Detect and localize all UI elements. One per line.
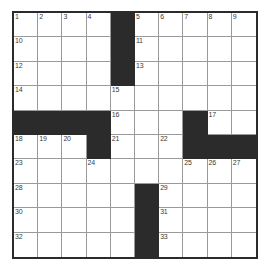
letter-square[interactable] (111, 184, 135, 208)
letter-square[interactable] (87, 86, 111, 110)
letter-square[interactable] (232, 184, 256, 208)
letter-square[interactable]: 18 (14, 135, 38, 159)
letter-square[interactable]: 9 (232, 13, 256, 37)
letter-square[interactable] (87, 37, 111, 61)
letter-square[interactable] (62, 37, 86, 61)
letter-square[interactable] (62, 86, 86, 110)
letter-square[interactable] (87, 184, 111, 208)
letter-square[interactable] (208, 86, 232, 110)
letter-square[interactable] (135, 159, 159, 183)
letter-square[interactable] (135, 86, 159, 110)
letter-square[interactable] (183, 233, 207, 257)
blocked-square (208, 135, 232, 159)
letter-square[interactable]: 2 (38, 13, 62, 37)
blocked-square (38, 111, 62, 135)
letter-square[interactable] (208, 62, 232, 86)
letter-square[interactable] (38, 184, 62, 208)
letter-square[interactable] (38, 208, 62, 232)
letter-square[interactable]: 15 (111, 86, 135, 110)
letter-square[interactable]: 13 (135, 62, 159, 86)
letter-square[interactable] (135, 111, 159, 135)
letter-square[interactable] (62, 233, 86, 257)
letter-square[interactable] (38, 37, 62, 61)
letter-square[interactable] (38, 159, 62, 183)
clue-number: 8 (209, 13, 213, 20)
blocked-square (135, 208, 159, 232)
letter-square[interactable]: 12 (14, 62, 38, 86)
clue-number: 26 (209, 159, 216, 166)
letter-square[interactable] (87, 62, 111, 86)
letter-square[interactable] (208, 233, 232, 257)
letter-square[interactable]: 17 (208, 111, 232, 135)
letter-square[interactable] (159, 159, 183, 183)
letter-square[interactable] (135, 135, 159, 159)
blocked-square (111, 62, 135, 86)
letter-square[interactable]: 25 (183, 159, 207, 183)
letter-square[interactable]: 8 (208, 13, 232, 37)
letter-square[interactable] (183, 37, 207, 61)
letter-square[interactable] (183, 62, 207, 86)
letter-square[interactable] (159, 111, 183, 135)
letter-square[interactable] (232, 233, 256, 257)
letter-square[interactable]: 3 (62, 13, 86, 37)
letter-square[interactable] (183, 208, 207, 232)
letter-square[interactable]: 33 (159, 233, 183, 257)
letter-square[interactable] (232, 37, 256, 61)
letter-square[interactable] (159, 37, 183, 61)
letter-square[interactable]: 7 (183, 13, 207, 37)
letter-square[interactable]: 27 (232, 159, 256, 183)
letter-square[interactable] (159, 86, 183, 110)
letter-square[interactable]: 28 (14, 184, 38, 208)
letter-square[interactable] (62, 208, 86, 232)
letter-square[interactable] (87, 208, 111, 232)
letter-square[interactable]: 5 (135, 13, 159, 37)
letter-square[interactable] (183, 184, 207, 208)
letter-square[interactable]: 21 (111, 135, 135, 159)
letter-square[interactable]: 10 (14, 37, 38, 61)
clue-number: 27 (233, 159, 240, 166)
letter-square[interactable] (159, 62, 183, 86)
letter-square[interactable]: 30 (14, 208, 38, 232)
letter-square[interactable]: 23 (14, 159, 38, 183)
letter-square[interactable]: 20 (62, 135, 86, 159)
letter-square[interactable] (62, 62, 86, 86)
letter-square[interactable] (38, 62, 62, 86)
letter-square[interactable] (208, 184, 232, 208)
blocked-square (135, 233, 159, 257)
letter-square[interactable] (111, 208, 135, 232)
letter-square[interactable]: 11 (135, 37, 159, 61)
letter-square[interactable]: 29 (159, 184, 183, 208)
letter-square[interactable] (232, 86, 256, 110)
clue-number: 28 (15, 184, 22, 191)
letter-square[interactable]: 22 (159, 135, 183, 159)
blocked-square (183, 135, 207, 159)
crossword-grid[interactable]: 1234567891011121314151617181920212223242… (12, 11, 258, 259)
letter-square[interactable]: 19 (38, 135, 62, 159)
letter-square[interactable]: 1 (14, 13, 38, 37)
letter-square[interactable] (87, 233, 111, 257)
letter-square[interactable] (208, 37, 232, 61)
letter-square[interactable]: 24 (87, 159, 111, 183)
letter-square[interactable] (38, 233, 62, 257)
letter-square[interactable] (62, 184, 86, 208)
letter-square[interactable]: 32 (14, 233, 38, 257)
clue-number: 1 (15, 13, 19, 20)
letter-square[interactable]: 16 (111, 111, 135, 135)
letter-square[interactable]: 4 (87, 13, 111, 37)
letter-square[interactable]: 14 (14, 86, 38, 110)
letter-square[interactable] (183, 86, 207, 110)
letter-square[interactable] (38, 86, 62, 110)
clue-number: 20 (63, 135, 70, 142)
letter-square[interactable] (232, 208, 256, 232)
letter-square[interactable]: 6 (159, 13, 183, 37)
letter-square[interactable] (208, 208, 232, 232)
letter-square[interactable] (111, 233, 135, 257)
letter-square[interactable] (62, 159, 86, 183)
letter-square[interactable] (111, 159, 135, 183)
letter-square[interactable]: 26 (208, 159, 232, 183)
blocked-square (135, 184, 159, 208)
letter-square[interactable] (232, 62, 256, 86)
letter-square[interactable]: 31 (159, 208, 183, 232)
letter-square[interactable] (232, 111, 256, 135)
clue-number: 22 (160, 135, 167, 142)
